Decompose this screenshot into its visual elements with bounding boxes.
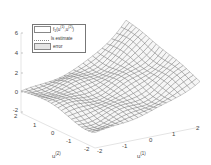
u1-axis-label: u(1) xyxy=(137,151,146,159)
legend-label: f1(u(1),u(2)) xyxy=(53,25,74,33)
z-tick: 2 xyxy=(15,70,19,76)
dotted-line-swatch-icon xyxy=(34,37,49,41)
legend: f1(u(1),u(2)) ls estimate error xyxy=(32,24,86,53)
legend-item-ls-estimate: ls estimate xyxy=(34,35,73,42)
u2-axis-label: u(2) xyxy=(52,151,61,159)
legend-label: error xyxy=(53,44,63,49)
z-axis-ticks: 6 4 2 0 -2 xyxy=(13,30,23,113)
u2-tick: 0 xyxy=(51,130,55,136)
mesh-swatch-icon xyxy=(34,26,51,33)
u1-tick: 2 xyxy=(196,125,200,131)
z-tick: 0 xyxy=(15,89,19,95)
u2-tick: 1 xyxy=(33,122,37,128)
legend-item-f1: f1(u(1),u(2)) xyxy=(34,26,74,33)
z-tick: 4 xyxy=(15,50,19,56)
legend-item-error: error xyxy=(34,43,63,50)
u1-tick: -1 xyxy=(122,143,128,149)
u1-tick: 0 xyxy=(149,137,153,143)
u2-tick: -2 xyxy=(84,146,90,152)
shaded-swatch-icon xyxy=(34,43,51,50)
z-tick: 6 xyxy=(15,30,19,36)
u1-tick: -2 xyxy=(97,148,103,154)
u2-tick: -1 xyxy=(66,138,72,144)
legend-label: ls estimate xyxy=(51,36,73,41)
u2-tick: 2 xyxy=(14,113,18,119)
